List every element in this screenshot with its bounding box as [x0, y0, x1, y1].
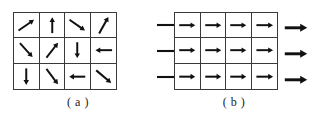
arrow-cell [175, 38, 201, 63]
arrow-cell [226, 38, 252, 63]
arrow-cell [201, 13, 227, 38]
figure-container: ( a ) ( b ) [0, 0, 312, 119]
arrow-cell [226, 64, 252, 89]
arrow-grid-a [13, 12, 117, 90]
outflow-arrow-icon [282, 44, 310, 58]
arrow-cell [14, 13, 40, 38]
panel-a-caption: ( a ) [0, 95, 156, 110]
arrow-cell [14, 64, 40, 89]
arrow-cell [91, 64, 117, 89]
outflow-arrow-icon [282, 18, 310, 32]
arrow-cell [201, 38, 227, 63]
arrow-cell [65, 13, 91, 38]
arrow-cell [175, 13, 201, 38]
inflow-line [156, 18, 176, 32]
inflow-line [156, 70, 176, 84]
outflow-arrows-group [282, 12, 310, 90]
arrow-cell [91, 38, 117, 63]
arrow-cell [65, 38, 91, 63]
arrow-cell [252, 38, 278, 63]
arrow-cell [201, 64, 227, 89]
arrow-cell [91, 13, 117, 38]
outflow-arrow-icon [282, 70, 310, 84]
panel-b-caption: ( b ) [156, 95, 312, 110]
arrow-cell [40, 64, 66, 89]
arrow-cell [65, 64, 91, 89]
arrow-cell [14, 38, 40, 63]
inflow-arrows-group [156, 12, 176, 90]
inflow-line [156, 44, 176, 58]
arrow-cell [226, 13, 252, 38]
arrow-cell [252, 64, 278, 89]
arrow-cell [40, 13, 66, 38]
arrow-grid-b [174, 12, 278, 90]
arrow-cell [175, 64, 201, 89]
panel-a: ( a ) [0, 0, 156, 119]
arrow-cell [252, 13, 278, 38]
panel-b: ( b ) [156, 0, 312, 119]
arrow-cell [40, 38, 66, 63]
